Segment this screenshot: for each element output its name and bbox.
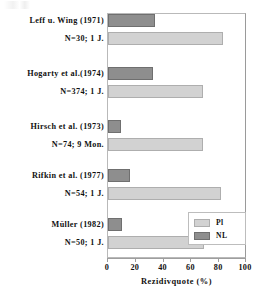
bar-nl [108, 218, 122, 231]
x-tick-label: 40 [148, 263, 178, 272]
bar-row-pl: N=30; 1 J. [0, 32, 268, 46]
study-label: Hirsch et al. (1973) [31, 120, 104, 134]
bar-pl [108, 187, 221, 200]
bar-pl [108, 85, 203, 98]
x-axis: 0 20 40 60 80 100 [107, 258, 246, 259]
x-tick-label: 60 [175, 263, 205, 272]
x-tick-label: 0 [92, 263, 122, 272]
sample-label: N=50; 1 J. [65, 236, 104, 250]
sample-label: N=30; 1 J. [65, 32, 104, 46]
bar-pl [108, 138, 203, 151]
x-tick-label: 20 [120, 263, 150, 272]
bar-nl [108, 120, 121, 133]
bar-row-pl: N=374; 1 J. [0, 85, 268, 99]
bar-nl [108, 169, 130, 182]
x-tick [107, 258, 108, 262]
bar-row-pl: N=74; 9 Mon. [0, 138, 268, 152]
bar-nl [108, 14, 155, 27]
bar-row-nl: Hogarty et al.(1974) [0, 67, 268, 81]
bar-pl [108, 32, 223, 45]
legend-item-pl: Pl [194, 216, 245, 229]
bar-row-pl: N=54; 1 J. [0, 187, 268, 201]
x-axis-title: Rezidivquote (%) [107, 277, 246, 286]
sample-label: N=374; 1 J. [60, 85, 104, 99]
study-label: Leff u. Wing (1971) [29, 14, 104, 28]
bar-row-nl: Hirsch et al. (1973) [0, 120, 268, 134]
scan-artifact [4, 1, 30, 9]
sample-label: N=54; 1 J. [65, 187, 104, 201]
study-label: Rifkin et al. (1977) [32, 169, 104, 183]
x-tick [190, 258, 191, 262]
x-tick [135, 258, 136, 262]
chart-figure: Leff u. Wing (1971) N=30; 1 J. Hogarty e… [0, 0, 268, 295]
x-tick [245, 258, 246, 262]
chart-legend: Pl NL [188, 212, 246, 245]
bar-nl [108, 67, 153, 80]
x-tick [163, 258, 164, 262]
x-tick [218, 258, 219, 262]
x-tick-label: 100 [230, 263, 260, 272]
sample-label: N=74; 9 Mon. [52, 138, 104, 152]
x-tick-label: 80 [203, 263, 233, 272]
legend-swatch-pl-icon [194, 219, 210, 227]
study-label: Hogarty et al.(1974) [27, 67, 104, 81]
bar-row-nl: Rifkin et al. (1977) [0, 169, 268, 183]
legend-label-pl: Pl [216, 218, 224, 227]
legend-label-nl: NL [216, 231, 227, 240]
legend-swatch-nl-icon [194, 232, 210, 240]
legend-item-nl: NL [194, 229, 245, 242]
bar-row-nl: Leff u. Wing (1971) [0, 14, 268, 28]
study-label: Müller (1982) [52, 218, 104, 232]
